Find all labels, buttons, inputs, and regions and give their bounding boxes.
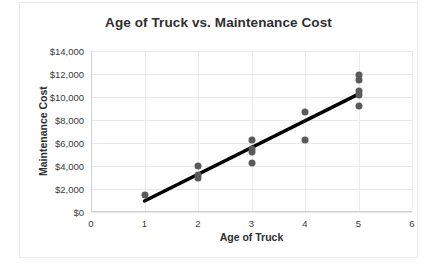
data-point <box>248 159 255 166</box>
gridline-vertical <box>305 51 306 212</box>
x-axis-tick-label: 6 <box>409 218 414 229</box>
y-axis-line <box>91 51 92 212</box>
x-axis-tick-label: 5 <box>356 218 361 229</box>
plot-area: $0$2,000$4,000$6,000$8,000$10,000$12,000… <box>91 51 412 212</box>
data-point <box>302 108 309 115</box>
gridline-horizontal <box>91 212 412 213</box>
y-axis-tick-label: $0 <box>73 207 84 218</box>
data-point <box>302 136 309 143</box>
x-axis-tick-label: 4 <box>302 218 307 229</box>
gridline-vertical <box>198 51 199 212</box>
y-axis-tick-label: $8,000 <box>55 115 84 126</box>
chart-container: Age of Truck vs. Maintenance Cost Mainte… <box>19 2 418 258</box>
gridline-vertical <box>252 51 253 212</box>
y-axis-tick-label: $2,000 <box>55 184 84 195</box>
gridline-vertical <box>145 51 146 212</box>
y-axis-tick-label: $4,000 <box>55 161 84 172</box>
data-point <box>355 102 362 109</box>
chart-title: Age of Truck vs. Maintenance Cost <box>20 15 417 30</box>
x-axis-tick-label: 2 <box>195 218 200 229</box>
gridline-vertical <box>412 51 413 212</box>
x-axis-title: Age of Truck <box>91 231 412 243</box>
data-point <box>141 192 148 199</box>
y-axis-tick-label: $6,000 <box>55 138 84 149</box>
data-point <box>355 91 362 98</box>
data-point <box>248 136 255 143</box>
data-point <box>248 149 255 156</box>
y-axis-tick-label: $12,000 <box>50 69 84 80</box>
x-axis-tick-label: 3 <box>249 218 254 229</box>
y-axis-title: Maintenance Cost <box>37 51 49 212</box>
y-axis-tick-label: $10,000 <box>50 92 84 103</box>
x-axis-tick-label: 1 <box>142 218 147 229</box>
x-axis-line <box>91 211 412 212</box>
data-point <box>355 76 362 83</box>
data-point <box>195 163 202 170</box>
x-axis-tick-label: 0 <box>88 218 93 229</box>
y-axis-tick-label: $14,000 <box>50 46 84 57</box>
data-point <box>195 174 202 181</box>
